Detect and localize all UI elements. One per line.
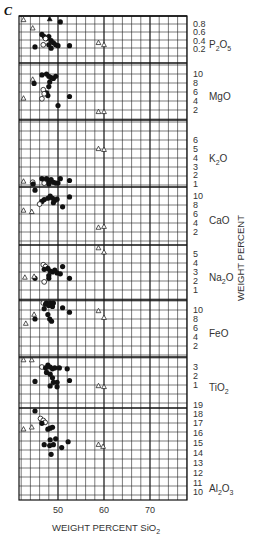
panel-label-k2o: K2O [209, 153, 228, 166]
data-point-filled-circle [60, 264, 65, 269]
data-point-filled-circle [49, 46, 54, 51]
data-point-filled-circle [67, 194, 72, 199]
y-tick-label: 1 [193, 285, 198, 295]
data-point-open-triangle [21, 179, 26, 183]
data-point-filled-circle [32, 188, 37, 193]
data-point-filled-circle [67, 378, 72, 383]
data-point-open-triangle [102, 224, 107, 228]
data-point-open-circle [43, 36, 48, 41]
data-point-filled-circle [51, 200, 56, 205]
data-point-filled-circle [55, 181, 60, 186]
panel-al2o3: 19181716151413121110Al2O3 [21, 400, 233, 497]
data-point-filled-circle [46, 181, 51, 186]
data-point-filled-circle [60, 305, 65, 310]
panel-label-tio2: TiO2 [209, 382, 229, 395]
data-point-filled-circle [48, 437, 53, 442]
data-point-open-triangle [96, 40, 101, 44]
data-point-filled-circle [55, 43, 60, 48]
data-point-open-triangle [96, 146, 101, 150]
y-tick-label: 16 [193, 428, 203, 438]
data-point-open-triangle [29, 209, 34, 213]
data-point-filled-circle [31, 181, 36, 186]
data-point-filled-circle [50, 375, 55, 380]
data-point-filled-circle [32, 316, 37, 321]
y-tick-label: 2 [193, 341, 198, 351]
y-tick-label: 0.2 [193, 44, 206, 54]
data-point-open-circle [40, 96, 45, 101]
data-point-filled-circle [50, 304, 55, 309]
data-point-filled-circle [60, 204, 65, 209]
figure-letter: C [4, 4, 13, 18]
data-point-open-triangle [30, 77, 35, 81]
y-tick-label: 13 [193, 458, 203, 468]
data-point-open-triangle [21, 208, 26, 212]
data-point-filled-circle [53, 74, 58, 79]
data-point-filled-circle [49, 319, 54, 324]
data-point-open-triangle [23, 321, 28, 325]
data-point-open-triangle [102, 42, 107, 46]
data-point-filled-circle [42, 442, 47, 447]
y-tick-label: 10 [193, 487, 203, 497]
data-point-filled-circle [49, 452, 54, 457]
data-point-open-circle [37, 202, 42, 207]
data-point-open-triangle [96, 225, 101, 229]
data-point-filled-circle [67, 94, 72, 99]
geochemistry-chart: C 0.80.60.40.2P2O5108642MgO654321K2O1086… [0, 0, 255, 542]
y-tick-label: 15 [193, 438, 203, 448]
data-point-filled-circle [42, 306, 47, 311]
y-tick-label: 2 [193, 227, 198, 237]
y-tick-label: 17 [193, 418, 203, 428]
panel-p2o5: 0.80.60.40.2P2O5 [21, 16, 231, 54]
data-point-filled-circle [59, 445, 64, 450]
panel-label-mgo: MgO [209, 91, 231, 102]
panel-label-al2o3: Al2O3 [209, 483, 234, 496]
data-point-filled-circle [54, 384, 59, 389]
data-point-filled-circle [66, 439, 71, 444]
data-point-open-triangle [22, 275, 27, 279]
x-tick-70: 70 [145, 505, 155, 515]
data-point-filled-circle [57, 365, 62, 370]
data-point-filled-circle [50, 425, 55, 430]
data-point-open-circle [42, 280, 47, 285]
panel-label-feo: FeO [209, 328, 229, 339]
y-tick-label: 12 [193, 468, 203, 478]
data-point-open-triangle [96, 442, 101, 446]
data-point-open-triangle [102, 315, 107, 319]
data-point-filled-circle [65, 366, 70, 371]
x-axis: 50 60 70 WEIGHT PERCENT SiO2 [52, 505, 160, 535]
data-point-open-triangle [96, 383, 101, 387]
data-point-filled-circle [67, 276, 72, 281]
data-point-filled-circle [39, 421, 44, 426]
data-point-filled-circle [51, 442, 56, 447]
data-point-filled-circle [47, 80, 52, 85]
panel-feo: 108642FeO [23, 300, 228, 351]
data-point-filled-circle [32, 44, 37, 49]
data-point-filled-circle [46, 276, 51, 281]
data-point-filled-circle [32, 379, 37, 384]
panel-k2o: 654321K2O [21, 135, 227, 189]
panel-cao: 108642CaO [21, 188, 230, 237]
data-point-filled-circle [67, 178, 72, 183]
data-point-open-triangle [102, 250, 107, 254]
data-point-open-triangle [101, 444, 106, 448]
y-tick-label: 14 [193, 448, 203, 458]
oxide-panels: 0.80.60.40.2P2O5108642MgO654321K2O108642… [21, 16, 234, 497]
data-point-filled-circle [58, 271, 63, 276]
data-point-open-triangle [96, 245, 101, 249]
data-point-open-triangle [47, 16, 52, 20]
data-point-open-triangle [21, 96, 26, 100]
x-tick-60: 60 [99, 505, 109, 515]
data-point-filled-circle [54, 380, 59, 385]
data-point-filled-circle [48, 383, 53, 388]
data-point-filled-circle [55, 103, 60, 108]
data-point-filled-circle [67, 43, 72, 48]
x-tick-50: 50 [53, 505, 63, 515]
data-point-open-triangle [32, 312, 37, 316]
panel-label-cao: CaO [209, 215, 230, 226]
y-tick-label: 2 [193, 105, 198, 115]
data-point-filled-circle [31, 81, 36, 86]
data-point-filled-circle [46, 84, 51, 89]
data-point-filled-circle [67, 310, 72, 315]
panel-label-p2o5: P2O5 [209, 39, 231, 52]
data-point-filled-circle [52, 365, 57, 370]
